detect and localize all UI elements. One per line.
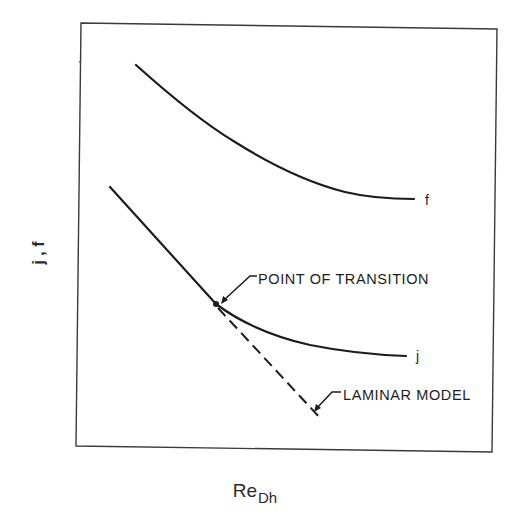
x-axis-label-subscript: Dh bbox=[258, 489, 277, 506]
f-series-label: f bbox=[425, 192, 429, 208]
chart-canvas: POINT OF TRANSITION LAMINAR MODEL f j j … bbox=[0, 0, 522, 518]
transition-leader-line bbox=[224, 276, 257, 300]
laminar-model-line bbox=[218, 308, 322, 420]
transition-point-marker bbox=[213, 301, 219, 307]
j-series-label: j bbox=[415, 348, 419, 364]
y-axis-label: j , f bbox=[30, 241, 47, 266]
transition-label: POINT OF TRANSITION bbox=[258, 271, 429, 287]
laminar-leader-line bbox=[317, 392, 341, 408]
x-axis-label-main: Re bbox=[233, 480, 257, 501]
f-curve bbox=[136, 65, 414, 199]
scan-mark bbox=[79, 61, 81, 63]
laminar-label: LAMINAR MODEL bbox=[343, 387, 471, 403]
